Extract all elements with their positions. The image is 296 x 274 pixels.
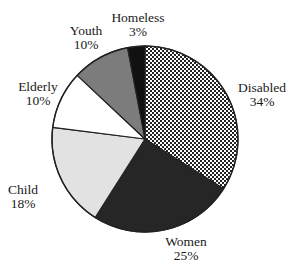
slice-percent-homeless: 3% xyxy=(129,24,147,39)
slice-percent-women: 25% xyxy=(174,248,199,263)
pie-slices xyxy=(52,46,238,232)
pie-chart-canvas: Disabled34%Women25%Child18%Elderly10%You… xyxy=(0,0,296,274)
slice-label-disabled: Disabled xyxy=(238,80,286,95)
slice-label-homeless: Homeless xyxy=(111,10,164,25)
slice-percent-child: 18% xyxy=(11,196,36,211)
slice-label-child: Child xyxy=(8,182,38,197)
slice-percent-youth: 10% xyxy=(74,37,99,52)
slice-percent-elderly: 10% xyxy=(26,93,51,108)
slice-percent-disabled: 34% xyxy=(250,94,275,109)
slice-label-elderly: Elderly xyxy=(18,79,58,94)
slice-label-women: Women xyxy=(165,234,207,249)
slice-label-youth: Youth xyxy=(70,23,103,38)
pie-chart: Disabled34%Women25%Child18%Elderly10%You… xyxy=(0,0,296,274)
